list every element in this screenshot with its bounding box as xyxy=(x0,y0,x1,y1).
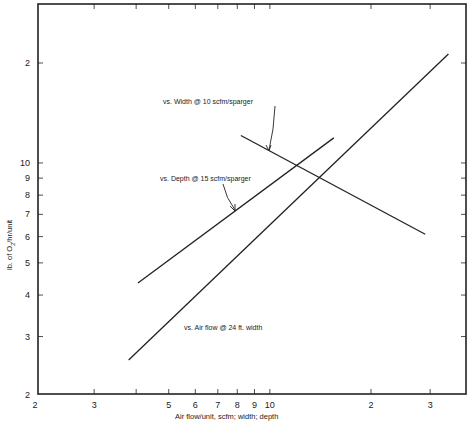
y-tick-label: 3 xyxy=(25,332,30,342)
x-tick-label: 2 xyxy=(32,400,37,410)
x-tick-label: 3 xyxy=(92,400,97,410)
width-annotation-arrow xyxy=(269,106,275,150)
x-tick-label: 5 xyxy=(166,400,171,410)
annotation-width: vs. Width @ 10 scfm/sparger xyxy=(163,98,254,106)
y-tick-label: 5 xyxy=(25,258,30,268)
y-tick-label: 2 xyxy=(25,58,30,68)
y-axis-title-pre: lb. of O xyxy=(5,246,14,270)
y-tick-label: 10 xyxy=(20,158,30,168)
x-tick-label: 2 xyxy=(368,400,373,410)
width-arrowhead xyxy=(266,145,271,151)
y-tick-label: 4 xyxy=(25,290,30,300)
depth-arrowhead xyxy=(230,204,235,211)
depth-annotation-arrow xyxy=(223,184,235,210)
x-axis-title: Air flow/unit, scfm; width; depth xyxy=(175,412,278,421)
x-tick-label: 10 xyxy=(265,400,275,410)
y-tick-label: 6 xyxy=(25,232,30,242)
y-tick-label: 7 xyxy=(25,209,30,219)
annotation-arrows xyxy=(223,106,275,211)
tick-labels: 2356789102323456789102 xyxy=(20,58,433,410)
x-tick-label: 8 xyxy=(235,400,240,410)
y-axis-title-post: /hr/unit xyxy=(5,219,14,243)
annotation-airflow: vs. Air flow @ 24 ft. width xyxy=(184,324,262,331)
chart: 2356789102323456789102 vs. Width @ 10 sc… xyxy=(0,0,468,424)
y-axis-title: lb. of O2/hr/unit xyxy=(5,219,16,270)
y-tick-label: 2 xyxy=(25,390,30,400)
x-tick-label: 9 xyxy=(252,400,257,410)
x-tick-label: 6 xyxy=(193,400,198,410)
annotation-depth: vs. Depth @ 15 scfm/sparger xyxy=(160,175,251,183)
y-tick-label: 9 xyxy=(25,173,30,183)
x-tick-label: 7 xyxy=(215,400,220,410)
series-line-2 xyxy=(138,138,334,283)
x-tick-label: 3 xyxy=(428,400,433,410)
y-tick-label: 8 xyxy=(25,190,30,200)
